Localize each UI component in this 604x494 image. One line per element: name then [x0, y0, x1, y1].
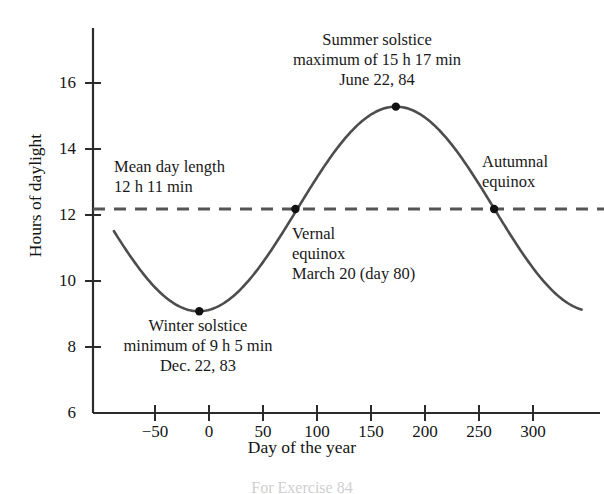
annotation-winter-solstice: Winter solstice minimum of 9 h 5 min Dec… [88, 316, 308, 376]
y-tick-label-14: 14 [46, 139, 76, 159]
y-tick-label-16: 16 [46, 73, 76, 93]
annotation-winter-line2: minimum of 9 h 5 min [88, 336, 308, 356]
annotation-winter-line1: Winter solstice [88, 316, 308, 336]
annotation-mean-day-length: Mean day length 12 h 11 min [114, 157, 314, 197]
y-axis-label: Hours of daylight [25, 111, 46, 281]
y-tick-label-12: 12 [46, 205, 76, 225]
annotation-mean-line2: 12 h 11 min [114, 177, 314, 197]
annotation-summer-line3: June 22, 84 [232, 70, 522, 90]
x-axis-label: Day of the year [182, 437, 422, 458]
annotation-winter-line3: Dec. 22, 83 [88, 356, 308, 376]
annotation-summer-line2: maximum of 15 h 17 min [232, 50, 522, 70]
point-marker-winter-solstice [195, 307, 203, 315]
point-marker-summer-solstice [392, 102, 400, 110]
point-marker-vernal-equinox [291, 205, 299, 213]
x-tick-label-250: 250 [456, 422, 502, 442]
figure-caption: For Exercise 84 [182, 479, 422, 494]
annotation-mean-line1: Mean day length [114, 157, 314, 177]
y-tick-label-10: 10 [46, 271, 76, 291]
y-tick-label-8: 8 [46, 337, 76, 357]
annotation-autumnal-line1: Autumnal [482, 152, 602, 172]
annotation-vernal-line1: Vernal [292, 224, 492, 244]
x-tick-label-300: 300 [510, 422, 556, 442]
annotation-summer-line1: Summer solstice [232, 30, 522, 50]
annotation-vernal-line2: equinox [292, 244, 492, 264]
annotation-summer-solstice: Summer solstice maximum of 15 h 17 min J… [232, 30, 522, 90]
point-marker-autumnal-equinox [490, 205, 498, 213]
y-tick-label-6: 6 [46, 403, 76, 423]
annotation-autumnal-line2: equinox [482, 172, 602, 192]
annotation-autumnal-equinox: Autumnal equinox [482, 152, 602, 192]
annotation-vernal-line3: March 20 (day 80) [292, 264, 492, 284]
daylight-chart-figure: Hours of daylight 16 14 12 10 8 6 −50 0 … [0, 0, 604, 494]
x-tick-label-minus50: −50 [132, 422, 178, 442]
annotation-vernal-equinox: Vernal equinox March 20 (day 80) [292, 224, 492, 284]
